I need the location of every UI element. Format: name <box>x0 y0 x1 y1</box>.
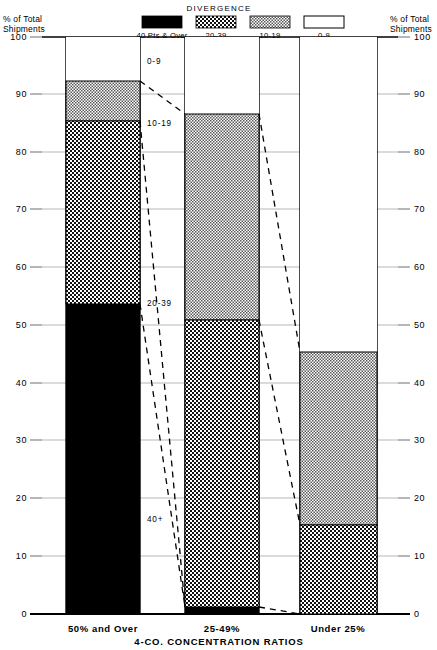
bar-segment-10-19-cat1 <box>66 81 140 121</box>
legend-swatch-light-stipple <box>250 16 290 28</box>
right-axis-title-line1: % of Total <box>390 14 429 24</box>
ytick-left-70: 70 <box>16 204 27 214</box>
category-label-25-49-percent: 25-49% <box>204 623 240 634</box>
ytick-left-60: 60 <box>16 262 27 272</box>
bar-segment-40-plus-cat2 <box>185 607 259 614</box>
connector-0-9-cat2-cat3 <box>259 114 300 352</box>
ytick-right-70: 70 <box>414 204 425 214</box>
y-axis-right-ticks: 100 90 80 70 60 50 40 30 20 10 0 <box>414 32 431 619</box>
bar-segment-20-39-cat1 <box>66 121 140 304</box>
legend-title: DIVERGENCE <box>187 4 252 13</box>
bar-group-50-percent-and-over <box>66 37 140 614</box>
left-axis-title-line1: % of Total <box>3 14 42 24</box>
bar-segment-0-9-cat1 <box>66 37 140 81</box>
ytick-right-80: 80 <box>414 147 425 157</box>
bar-group-under-25-percent <box>300 37 377 614</box>
bar-segment-0-9-cat2 <box>185 37 259 114</box>
ytick-left-50: 50 <box>16 320 27 330</box>
legend-swatch-white <box>304 16 344 28</box>
annotation-20-39: 20-39 <box>147 299 172 308</box>
x-axis-categories: 50% and Over 25-49% Under 25% <box>68 623 365 634</box>
legend-label-10-19: 10-19 <box>260 31 281 40</box>
y-axis-left-ticks: 100 90 80 70 60 50 40 30 20 10 0 <box>10 32 27 619</box>
stacked-bar-chart: DIVERGENCE 40 Pts & Over 20-39 10-19 0-9… <box>0 0 437 650</box>
bar-segment-10-19-cat2 <box>185 114 259 320</box>
connector-20-39-cat2-cat3 <box>259 607 300 614</box>
ytick-right-90: 90 <box>414 89 425 99</box>
ytick-left-80: 80 <box>16 147 27 157</box>
bar-segment-10-19-cat3 <box>300 352 377 525</box>
connector-0-9-cat1-cat2 <box>140 81 185 114</box>
connector-20-39-cat1-cat2 <box>140 304 185 607</box>
ytick-right-20: 20 <box>414 493 425 503</box>
ytick-left-10: 10 <box>16 551 27 561</box>
ytick-right-40: 40 <box>414 378 425 388</box>
bar-segment-20-39-cat3 <box>300 525 377 614</box>
legend-swatch-solid-black <box>142 16 182 28</box>
ytick-left-90: 90 <box>16 89 27 99</box>
legend-label-40-pts-over: 40 Pts & Over <box>136 31 187 40</box>
ytick-left-40: 40 <box>16 378 27 388</box>
ytick-right-10: 10 <box>414 551 425 561</box>
ytick-left-0: 0 <box>21 609 27 619</box>
category-label-under-25-percent: Under 25% <box>311 623 366 634</box>
bar-group-25-49-percent <box>185 37 259 614</box>
legend: DIVERGENCE 40 Pts & Over 20-39 10-19 0-9 <box>136 4 344 40</box>
bar-segment-0-9-cat3 <box>300 37 377 352</box>
connector-10-19-cat1-cat2 <box>140 121 185 607</box>
ytick-left-100: 100 <box>10 32 27 42</box>
ytick-right-50: 50 <box>414 320 425 330</box>
axis-header-right: % of Total Shipments <box>390 14 432 34</box>
ytick-right-0: 0 <box>414 609 420 619</box>
annotation-10-19: 10-19 <box>147 119 172 128</box>
ytick-left-20: 20 <box>16 493 27 503</box>
axis-header-left: % of Total Shipments <box>3 14 45 34</box>
chart-annotations: 0-9 10-19 20-39 40+ <box>147 57 172 524</box>
ytick-right-100: 100 <box>414 32 431 42</box>
annotation-40-plus: 40+ <box>147 515 163 524</box>
bar-segment-20-39-cat2 <box>185 320 259 607</box>
category-label-50-percent-and-over: 50% and Over <box>68 623 138 634</box>
chart-container: DIVERGENCE 40 Pts & Over 20-39 10-19 0-9… <box>0 0 437 650</box>
ytick-right-30: 30 <box>414 435 425 445</box>
x-axis-title: 4-CO. CONCENTRATION RATIOS <box>134 636 303 647</box>
ytick-left-30: 30 <box>16 435 27 445</box>
annotation-0-9: 0-9 <box>147 57 161 66</box>
bar-segment-40-plus-cat1 <box>66 304 140 614</box>
ytick-right-60: 60 <box>414 262 425 272</box>
connector-10-19-cat2-cat3 <box>259 320 300 525</box>
legend-swatch-dense-checker <box>196 16 236 28</box>
